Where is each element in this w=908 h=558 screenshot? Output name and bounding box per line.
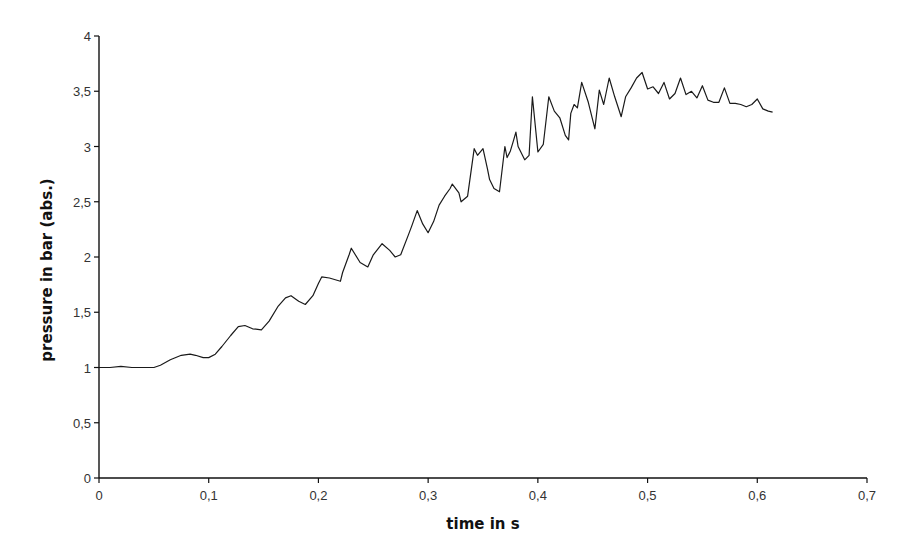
chart: 00,511,522,533,54 00,10,20,30,40,50,60,7… — [0, 0, 908, 558]
y-tick-label: 3 — [84, 140, 91, 155]
y-axis-title: pressure in bar (abs.) — [38, 178, 56, 361]
x-tick-label: 0,3 — [419, 488, 437, 503]
x-tick-label: 0,6 — [748, 488, 766, 503]
x-axis-title: time in s — [446, 515, 519, 533]
y-tick-label: 1 — [84, 361, 91, 376]
x-tick-label: 0,1 — [200, 488, 218, 503]
y-tick-label: 2 — [84, 250, 91, 265]
x-axis-ticks: 00,10,20,30,40,50,60,7 — [95, 478, 876, 503]
y-tick-label: 0 — [84, 471, 91, 486]
y-axis-ticks: 00,511,522,533,54 — [73, 29, 99, 486]
x-tick-label: 0,7 — [858, 488, 876, 503]
y-tick-label: 0,5 — [73, 416, 91, 431]
y-tick-label: 3,5 — [73, 84, 91, 99]
pressure-series-line — [99, 73, 773, 368]
plot-area — [99, 73, 773, 368]
x-tick-label: 0,2 — [309, 488, 327, 503]
y-tick-label: 2,5 — [73, 195, 91, 210]
x-tick-label: 0,5 — [639, 488, 657, 503]
y-tick-label: 1,5 — [73, 305, 91, 320]
x-tick-label: 0,4 — [529, 488, 547, 503]
y-tick-label: 4 — [84, 29, 91, 44]
x-tick-label: 0 — [95, 488, 102, 503]
